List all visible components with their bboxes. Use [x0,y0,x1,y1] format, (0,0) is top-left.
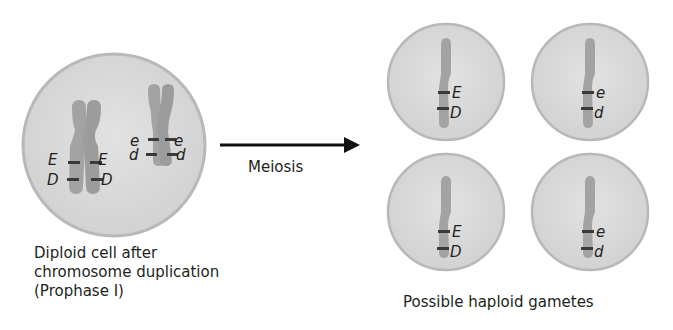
diploid-cell: E D E D e d e d [23,54,205,236]
svg-text:E: E [452,84,462,102]
svg-text:e: e [596,223,605,241]
svg-text:d: d [129,146,139,164]
svg-text:E: E [48,151,58,169]
svg-text:d: d [594,243,604,261]
diploid-caption: Diploid cell after chromosome duplicatio… [34,244,219,301]
svg-text:D: D [450,243,462,261]
svg-text:D: D [450,104,462,122]
gamete-bottom-left: E D [388,154,504,270]
meiosis-label: Meiosis [248,158,303,177]
caption-line: Diploid cell after [34,244,219,263]
meiosis-arrow-icon [220,137,360,153]
svg-text:d: d [594,104,604,122]
svg-text:D: D [47,171,59,189]
gametes-caption: Possible haploid gametes [403,293,594,312]
svg-text:e: e [596,84,605,102]
svg-text:D: D [101,171,113,189]
gamete-top-left: E D [388,24,504,140]
gamete-bottom-right: e d [532,154,648,270]
svg-text:E: E [452,223,462,241]
gamete-top-right: e d [532,24,648,140]
svg-text:E: E [98,151,108,169]
caption-line: (Prophase I) [34,282,219,301]
caption-line: chromosome duplication [34,263,219,282]
svg-text:d: d [176,146,186,164]
